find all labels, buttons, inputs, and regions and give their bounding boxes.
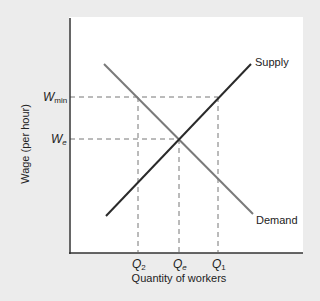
q2-tick-label: Q2 — [132, 257, 146, 272]
qe-tick-label: Qe — [173, 257, 187, 272]
demand-label: Demand — [256, 214, 298, 226]
x-axis-title: Quantity of workers — [132, 272, 227, 284]
q1-tick-label: Q1 — [212, 257, 226, 272]
supply-label: Supply — [255, 56, 289, 68]
wmin-tick-label: Wmin — [43, 90, 67, 105]
y-axis-title: Wage (per hour) — [19, 104, 31, 184]
we-tick-label: We — [51, 132, 67, 147]
labor-market-chart: Supply Demand Wmin We Q2 Qe Q1 Quantity … — [0, 0, 320, 301]
